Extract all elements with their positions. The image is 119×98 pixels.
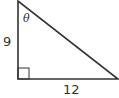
vertical-side-length-label: 9 [3, 34, 11, 49]
right-angle-marker [18, 68, 29, 79]
right-triangle-diagram: θ 9 12 [0, 0, 119, 98]
horizontal-side-length-label: 12 [63, 82, 80, 97]
angle-theta-label: θ [23, 12, 30, 25]
triangle [18, 1, 118, 79]
